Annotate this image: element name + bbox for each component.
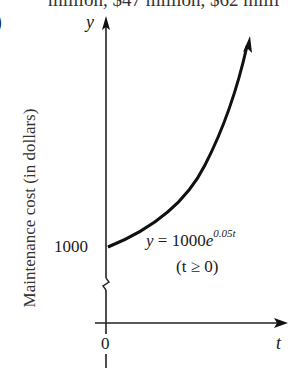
- curve-start-marker: [108, 244, 114, 247]
- y-tick-label-1000: 1000: [54, 237, 88, 257]
- plot-area: [0, 0, 304, 382]
- exponential-curve: [108, 46, 247, 247]
- t-axis-letter: t: [276, 333, 281, 354]
- equation-label: y = 1000e0.05t: [146, 229, 236, 251]
- y-axis-letter: y: [86, 12, 94, 33]
- equation-lhs: y = 1000e0.05t: [146, 231, 236, 250]
- axis-break-icon: [103, 278, 109, 290]
- origin-tick-label: 0: [101, 334, 110, 354]
- domain-label: (t ≥ 0): [176, 257, 218, 277]
- y-axis-title: Maintenance cost (in dollars): [20, 109, 40, 308]
